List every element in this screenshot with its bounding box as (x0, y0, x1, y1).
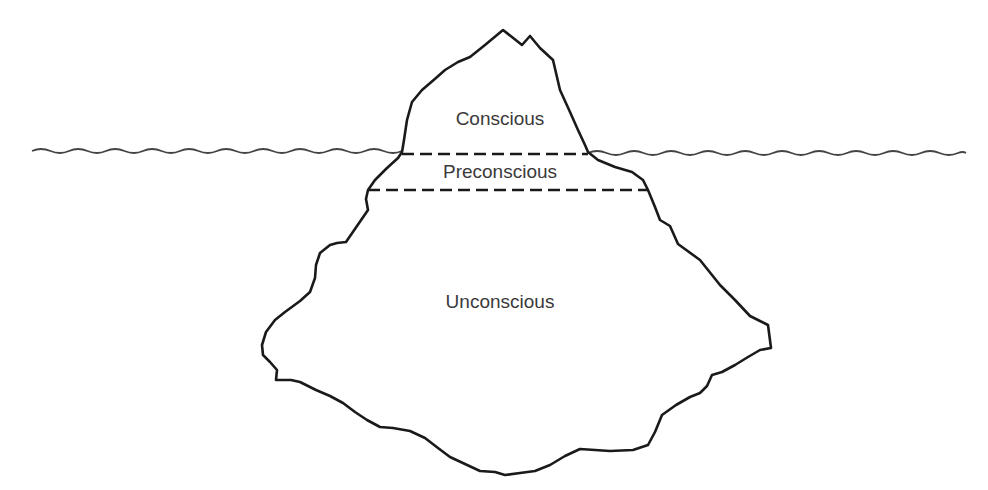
waterline-right (588, 151, 966, 155)
waterline-left (32, 149, 405, 153)
iceberg-outline (262, 30, 771, 475)
label-preconscious: Preconscious (443, 161, 557, 183)
label-unconscious: Unconscious (446, 291, 555, 313)
label-conscious: Conscious (456, 108, 545, 130)
iceberg-drawing (0, 0, 988, 490)
iceberg-diagram: Conscious Preconscious Unconscious (0, 0, 988, 490)
